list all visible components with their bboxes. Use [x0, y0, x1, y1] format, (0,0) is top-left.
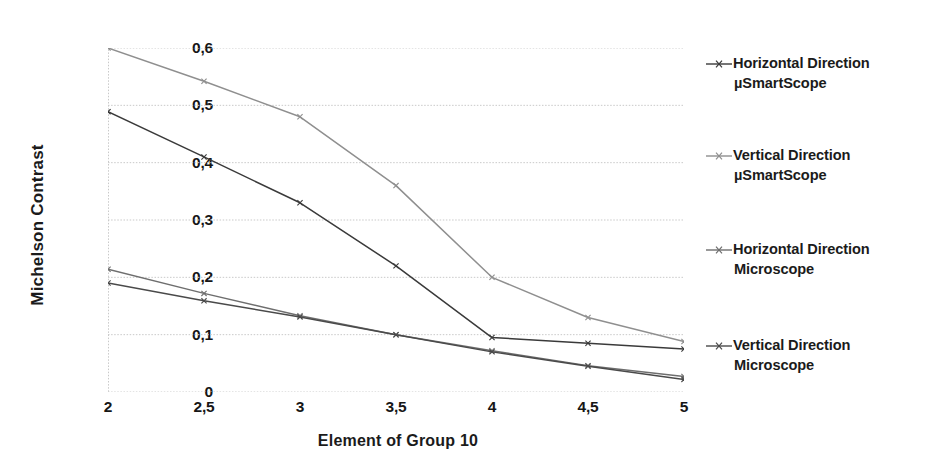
- legend-item-2[interactable]: Horizontal DirectionMicroscope: [706, 240, 921, 279]
- x-tick-5: 5: [654, 398, 714, 416]
- legend-label: Vertical DirectionMicroscope: [733, 336, 850, 375]
- series-marker: [393, 263, 398, 268]
- x-tick-2-5: 2,5: [174, 398, 234, 416]
- chart-figure: Michelson Contrast Element of Group 10 0…: [0, 0, 927, 476]
- legend-label-line2: Microscope: [733, 356, 850, 376]
- plot-area: [108, 48, 684, 392]
- series-marker: [201, 154, 206, 159]
- legend-marker-icon: [706, 148, 732, 164]
- series-line-1: [108, 48, 684, 342]
- series-line-3: [108, 283, 684, 379]
- series-marker: [393, 183, 398, 188]
- legend-marker-icon: [706, 338, 732, 354]
- plot-svg: [108, 48, 684, 392]
- y-axis-title: Michelson Contrast: [28, 125, 48, 325]
- legend-label-line1: Vertical Direction: [733, 147, 850, 163]
- legend-label: Vertical DirectionµSmartScope: [733, 146, 850, 185]
- legend-label-line2: µSmartScope: [733, 166, 850, 186]
- x-tick-4: 4: [462, 398, 522, 416]
- legend-item-0[interactable]: Horizontal DirectionµSmartScope: [706, 54, 921, 93]
- legend-label-line1: Horizontal Direction: [733, 241, 870, 257]
- series-marker: [297, 200, 302, 205]
- legend-label-line2: Microscope: [733, 260, 870, 280]
- legend-marker-icon: [706, 56, 732, 72]
- series-line-2: [108, 269, 684, 376]
- legend-label: Horizontal DirectionµSmartScope: [733, 54, 870, 93]
- legend-label: Horizontal DirectionMicroscope: [733, 240, 870, 279]
- x-tick-2: 2: [78, 398, 138, 416]
- legend-item-3[interactable]: Vertical DirectionMicroscope: [706, 336, 921, 375]
- legend-marker-icon: [706, 242, 732, 258]
- x-axis-title: Element of Group 10: [108, 432, 688, 450]
- x-tick-3-5: 3,5: [366, 398, 426, 416]
- x-tick-3: 3: [270, 398, 330, 416]
- legend-label-line2: µSmartScope: [733, 74, 870, 94]
- series-line-0: [108, 112, 684, 349]
- legend-label-line1: Horizontal Direction: [733, 55, 870, 71]
- legend-label-line1: Vertical Direction: [733, 337, 850, 353]
- legend-item-1[interactable]: Vertical DirectionµSmartScope: [706, 146, 921, 185]
- x-tick-4-5: 4,5: [558, 398, 618, 416]
